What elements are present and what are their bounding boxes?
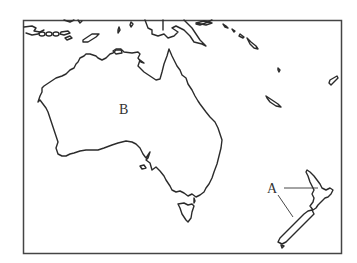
label-a: A bbox=[267, 181, 278, 196]
leader-line-south-island bbox=[278, 195, 293, 217]
new-zealand-south-island bbox=[278, 210, 314, 244]
island-vanuatu bbox=[278, 68, 280, 72]
map-frame bbox=[24, 21, 342, 254]
tasmania-islet bbox=[194, 198, 195, 203]
new-zealand-north-island bbox=[306, 170, 333, 210]
label-b: B bbox=[119, 102, 128, 117]
island-fiji bbox=[329, 76, 338, 85]
tasmania-coast bbox=[178, 203, 194, 222]
island-chain-indonesia bbox=[24, 20, 133, 42]
kangaroo-island bbox=[140, 165, 146, 169]
island-new-caledonia bbox=[266, 96, 281, 107]
stewart-island bbox=[281, 245, 284, 248]
outline-map: B A bbox=[0, 0, 357, 263]
australia-coast bbox=[38, 49, 222, 197]
island-chain-solomons bbox=[223, 24, 258, 49]
